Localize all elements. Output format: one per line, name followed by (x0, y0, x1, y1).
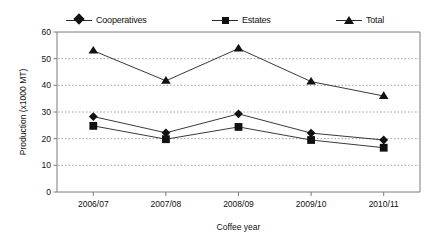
y-tick-label: 0 (46, 187, 51, 197)
y-axis-title: Production (x1000 MT) (18, 69, 28, 156)
data-point-estates-3 (307, 136, 315, 144)
y-tick-label: 50 (42, 54, 52, 64)
data-point-total-3 (306, 77, 316, 85)
data-point-estates-2 (235, 123, 243, 131)
x-tick-label: 2010/11 (369, 199, 399, 209)
plot-area: 01020304050602006/072007/082008/092009/1… (0, 0, 441, 248)
x-tick-label: 2009/10 (296, 199, 327, 209)
data-point-cooperatives-0 (89, 112, 98, 121)
chart-screenshot: Cooperatives Estates Total 0102030405060… (0, 0, 441, 248)
y-tick-label: 30 (42, 107, 52, 117)
series-line-total (93, 49, 383, 96)
y-tick-label: 40 (42, 80, 52, 90)
x-tick-label: 2006/07 (78, 199, 109, 209)
x-tick-label: 2008/09 (223, 199, 254, 209)
x-tick-label: 2007/08 (151, 199, 182, 209)
data-point-estates-0 (89, 122, 97, 130)
x-axis-title: Coffee year (217, 222, 261, 232)
data-point-estates-4 (380, 144, 388, 152)
data-point-total-2 (234, 44, 244, 52)
line-chart: 01020304050602006/072007/082008/092009/1… (0, 0, 441, 248)
y-tick-label: 60 (42, 27, 52, 37)
data-point-total-0 (89, 46, 99, 54)
data-point-cooperatives-4 (379, 136, 388, 145)
y-tick-label: 10 (42, 160, 52, 170)
data-point-estates-1 (162, 135, 170, 143)
data-point-cooperatives-2 (234, 109, 243, 118)
y-tick-label: 20 (42, 134, 52, 144)
